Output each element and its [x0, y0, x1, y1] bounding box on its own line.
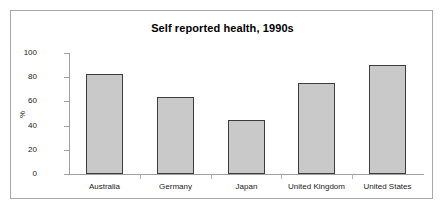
y-tick-label: 40: [0, 122, 37, 130]
x-axis-label: United States: [352, 182, 423, 191]
y-tick-20: [64, 150, 69, 151]
y-tick-100: [64, 53, 69, 54]
x-axis-separator: [281, 174, 282, 179]
y-tick-label: 60: [0, 97, 37, 105]
x-axis-label: Japan: [211, 182, 282, 191]
bar: [369, 65, 406, 174]
y-tick-label: 20: [0, 146, 37, 154]
chart-title: Self reported health, 1990s: [11, 22, 434, 34]
x-axis-label: Australia: [69, 182, 140, 191]
y-axis-label: %: [18, 111, 27, 118]
y-tick-60: [64, 101, 69, 102]
y-tick-label: 0: [0, 170, 37, 178]
bar: [86, 74, 123, 174]
y-tick-80: [64, 77, 69, 78]
y-tick-label: 80: [0, 73, 37, 81]
x-axis-separator: [211, 174, 212, 179]
y-tick-label: 100: [0, 49, 37, 57]
x-axis-line: [69, 174, 424, 175]
bar: [228, 120, 265, 174]
chart-screenshot: Self reported health, 1990s % 0204060801…: [0, 0, 444, 210]
y-axis-line: [69, 53, 70, 175]
y-tick-40: [64, 126, 69, 127]
y-tick-0: [64, 174, 69, 175]
x-axis-separator: [352, 174, 353, 179]
bar: [157, 97, 194, 174]
chart-frame: Self reported health, 1990s % 0204060801…: [10, 10, 433, 199]
x-axis-label: United Kingdom: [281, 182, 352, 191]
x-axis-label: Germany: [140, 182, 211, 191]
x-axis-separator: [140, 174, 141, 179]
bar: [298, 83, 335, 174]
